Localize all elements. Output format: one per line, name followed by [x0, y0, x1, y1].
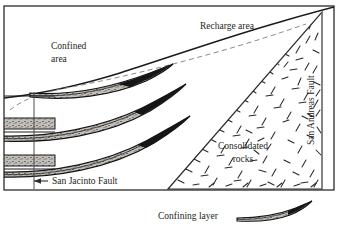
san-jacinto-fault-label: San Jacinto Fault — [52, 176, 118, 186]
recharge-area-label: Recharge area — [200, 21, 255, 31]
consolidated-rocks-label-line1: Consolidated — [218, 141, 268, 151]
consolidated-rocks-label-line2: rocks — [233, 154, 254, 164]
san-andreas-fault-label: San Andreas Fault — [306, 75, 316, 145]
confined-area-label-line2: area — [51, 54, 68, 64]
legend-label: Confining layer — [158, 211, 219, 221]
confined-area-label-line1: Confined — [51, 41, 87, 51]
figure-canvas: Recharge area Confined area Consolidated… — [0, 0, 340, 228]
cross-section-svg: Recharge area Confined area Consolidated… — [0, 0, 340, 228]
